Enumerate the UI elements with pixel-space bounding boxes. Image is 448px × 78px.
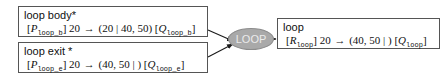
formula-step: 20: [320, 34, 331, 46]
formula-before-bar: 40, 50: [102, 58, 130, 70]
formula-post-right-bracket: ]: [423, 34, 427, 46]
formula-precondition-sub: loop_b: [37, 29, 62, 37]
formula-before-bar: 40, 50: [353, 34, 381, 46]
formula-bar: |: [132, 58, 134, 70]
formula-close-paren: ): [137, 58, 141, 70]
formula-post-right-bracket: ]: [192, 22, 196, 34]
formula-arrow: →: [83, 58, 96, 70]
formula-right-bracket: ]: [63, 22, 67, 34]
node-loop-exit-star: *: [68, 45, 72, 57]
node-loop-exit[interactable]: loop exit * [Ploop_e] 20 → (40, 50 | ) […: [18, 42, 208, 73]
formula-postcondition-sub: loop_b: [166, 29, 191, 37]
formula-precondition-sub: loop: [296, 41, 313, 49]
formula-bar: |: [116, 22, 118, 34]
formula-post-right-bracket: ]: [181, 58, 185, 70]
formula-postcondition-sub: loop_e: [155, 65, 180, 73]
formula-arrow: →: [83, 22, 96, 34]
formula-postcondition: Q: [398, 34, 406, 46]
node-loop-body-star: *: [72, 9, 76, 21]
formula-right-bracket: ]: [63, 58, 67, 70]
diagram-canvas: loop body* [Ploop_b] 20 → (20 | 40, 50) …: [0, 0, 448, 78]
formula-after-bar: 40, 50: [121, 22, 149, 34]
formula-close-paren: ): [388, 34, 392, 46]
node-loop-body[interactable]: loop body* [Ploop_b] 20 → (20 | 40, 50) …: [18, 6, 208, 37]
node-loop-formula: [Rloop] 20 → (40, 50 | ) [Qloop]: [283, 34, 435, 47]
node-loop-exit-title: loop exit *: [24, 45, 203, 57]
node-loop-exit-formula: [Ploop_e] 20 → (40, 50 | ) [Qloop_e]: [24, 58, 203, 71]
node-loop-title: loop: [283, 21, 435, 33]
formula-bar: |: [383, 34, 385, 46]
node-loop[interactable]: loop [Rloop] 20 → (40, 50 | ) [Qloop]: [277, 18, 440, 49]
node-loop-rule[interactable]: LOOP: [228, 28, 274, 50]
formula-postcondition-sub: loop: [406, 41, 423, 49]
node-loop-body-title: loop body*: [24, 9, 203, 21]
formula-before-bar: 20: [102, 22, 113, 34]
formula-step: 20: [69, 58, 80, 70]
formula-arrow: →: [333, 34, 346, 46]
node-loop-body-formula: [Ploop_b] 20 → (20 | 40, 50) [Qloop_b]: [24, 22, 203, 35]
formula-right-bracket: ]: [313, 34, 317, 46]
node-loop-rule-label: LOOP: [229, 29, 273, 49]
formula-precondition-sub: loop_e: [37, 65, 62, 73]
formula-close-paren: ): [148, 22, 152, 34]
formula-step: 20: [69, 22, 80, 34]
